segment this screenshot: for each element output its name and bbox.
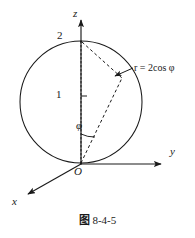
phi-angle-label: φ bbox=[76, 120, 82, 131]
z-value-2-label: 2 bbox=[57, 30, 63, 41]
y-axis-label: y bbox=[170, 146, 175, 157]
x-axis-label: x bbox=[12, 196, 17, 207]
figure-caption: 图 8-4-5 bbox=[0, 211, 195, 227]
origin-label: O bbox=[74, 166, 82, 177]
radius-value-1-label: 1 bbox=[56, 89, 62, 100]
caption-number: 8-4-5 bbox=[92, 214, 116, 226]
phi-angle-arc bbox=[81, 134, 95, 137]
top-point-dot bbox=[80, 41, 82, 43]
annotation-leader-arrow bbox=[115, 68, 133, 76]
caption-prefix: 图 bbox=[79, 214, 90, 227]
equation-label: r = 2cos φ bbox=[134, 63, 175, 73]
chord-top-to-point bbox=[82, 42, 122, 78]
figure-container: z y x O 2 1 φ r = 2cos φ 图 8-4-5 bbox=[0, 0, 195, 238]
z-axis-label: z bbox=[73, 8, 77, 19]
geometry-diagram bbox=[0, 0, 195, 238]
radius-vector-dashed bbox=[81, 78, 122, 163]
